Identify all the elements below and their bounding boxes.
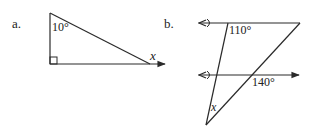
right-angle-marker-icon — [50, 57, 57, 64]
angle-b-110: 110° — [229, 23, 252, 37]
figure-a: a. 10° x — [12, 13, 165, 64]
diagram-canvas: a. 10° x b. 110° 140° x — [0, 0, 334, 126]
figure-b: b. 110° 140° x — [164, 16, 300, 125]
angle-b-140: 140° — [252, 75, 275, 89]
angle-a-top: 10° — [52, 20, 69, 34]
angle-a-x: x — [149, 48, 156, 63]
angle-b-x: x — [210, 100, 217, 114]
triangle-b-right-side — [206, 23, 300, 125]
figure-a-label: a. — [12, 16, 21, 31]
figure-b-label: b. — [164, 16, 174, 31]
